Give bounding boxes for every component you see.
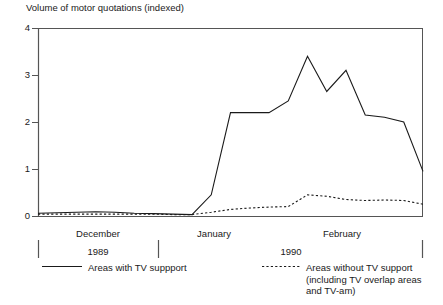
chart-canvas (0, 0, 443, 305)
y-axis-ticks (32, 29, 38, 217)
chart-figure: Volume of motor quotations (indexed) 4 3… (0, 0, 443, 305)
period-separator-ticks (39, 240, 423, 258)
series-line-with-tv-support (38, 56, 423, 214)
